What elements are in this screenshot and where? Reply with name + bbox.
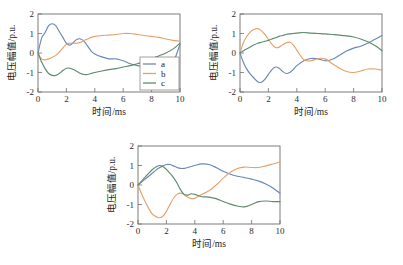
chart-panel-a: 2 1 0 -1 -2 0 2 4 6 8 10 时间/ms 电压幅值/p.u. xyxy=(0,0,200,133)
chart-a-ytick-2: 0 xyxy=(30,48,35,58)
chart-a-xticks: 0 2 4 6 8 10 xyxy=(36,88,185,104)
chart-b-ytick-2: 0 xyxy=(232,48,237,58)
chart-c-ytick-3: -1 xyxy=(127,200,135,210)
chart-c-yticks: 2 1 0 -1 -2 xyxy=(127,141,143,229)
chart-a-xtick-0: 0 xyxy=(36,94,41,104)
chart-a-xtick-5: 10 xyxy=(176,94,186,104)
series-line-a xyxy=(138,164,280,193)
chart-b-ytick-4: -2 xyxy=(229,87,237,97)
chart-b-xtick-2: 4 xyxy=(295,94,300,104)
legend-label-b: b xyxy=(161,69,166,79)
chart-a-xtick-1: 2 xyxy=(64,94,69,104)
chart-panel-b: 2 1 0 -1 -2 0 2 4 6 8 10 时间/ms 电压幅值/p.u. xyxy=(202,0,402,133)
chart-a-svg: 2 1 0 -1 -2 0 2 4 6 8 10 时间/ms 电压幅值/p.u. xyxy=(0,0,200,133)
chart-b-yticks: 2 1 0 -1 -2 xyxy=(229,9,245,97)
chart-c-ytick-0: 2 xyxy=(130,141,135,151)
chart-panel-c: 2 1 0 -1 -2 0 2 4 6 8 10 时间/ms 电压幅值/p.u. xyxy=(100,134,300,264)
chart-c-xtick-4: 8 xyxy=(249,226,254,236)
chart-c-curves xyxy=(138,162,280,218)
chart-b-yaxis-title: 电压幅值/p.u. xyxy=(208,25,219,82)
chart-b-xticks: 0 2 4 6 8 10 xyxy=(238,88,387,104)
chart-b-ytick-0: 2 xyxy=(232,9,237,19)
chart-b-ytick-1: 1 xyxy=(232,29,237,39)
chart-a-legend: a b c xyxy=(140,57,179,90)
chart-c-frame xyxy=(138,146,280,224)
chart-c-xtick-3: 6 xyxy=(221,226,226,236)
chart-c-xtick-5: 10 xyxy=(276,226,286,236)
chart-b-frame xyxy=(240,14,382,92)
chart-a-xtick-4: 8 xyxy=(149,94,154,104)
chart-b-xtick-0: 0 xyxy=(238,94,243,104)
chart-a-ytick-1: 1 xyxy=(30,29,35,39)
chart-b-xaxis-title: 时间/ms xyxy=(294,106,328,117)
legend-label-c: c xyxy=(161,78,165,88)
series-line-b xyxy=(138,162,280,218)
chart-a-ytick-3: -1 xyxy=(27,68,35,78)
chart-c-ytick-4: -2 xyxy=(127,219,135,229)
chart-b-curves xyxy=(240,29,382,83)
chart-b-svg: 2 1 0 -1 -2 0 2 4 6 8 10 时间/ms 电压幅值/p.u. xyxy=(202,0,402,133)
chart-a-xaxis-title: 时间/ms xyxy=(92,106,126,117)
chart-c-ytick-1: 1 xyxy=(130,161,135,171)
chart-c-xtick-0: 0 xyxy=(136,226,141,236)
chart-b-xtick-1: 2 xyxy=(266,94,271,104)
chart-a-ytick-4: -2 xyxy=(27,87,35,97)
chart-b-xtick-4: 8 xyxy=(351,94,356,104)
series-line-c xyxy=(138,165,280,206)
chart-c-xticks: 0 2 4 6 8 10 xyxy=(136,220,285,236)
chart-b-xtick-5: 10 xyxy=(378,94,388,104)
chart-c-xtick-1: 2 xyxy=(164,226,169,236)
series-line-c xyxy=(240,33,382,53)
chart-a-ytick-0: 2 xyxy=(30,9,35,19)
chart-c-xtick-2: 4 xyxy=(193,226,198,236)
chart-c-svg: 2 1 0 -1 -2 0 2 4 6 8 10 时间/ms 电压幅值/p.u. xyxy=(100,134,300,264)
chart-a-yaxis-title: 电压幅值/p.u. xyxy=(6,25,17,82)
chart-c-ytick-2: 0 xyxy=(130,180,135,190)
chart-a-xtick-2: 4 xyxy=(93,94,98,104)
chart-a-xtick-3: 6 xyxy=(121,94,126,104)
chart-c-xaxis-title: 时间/ms xyxy=(192,238,226,249)
chart-b-ytick-3: -1 xyxy=(229,68,237,78)
chart-a-yticks: 2 1 0 -1 -2 xyxy=(27,9,43,97)
chart-c-yaxis-title: 电压幅值/p.u. xyxy=(106,157,117,214)
series-line-b xyxy=(240,29,382,73)
chart-b-xtick-3: 6 xyxy=(323,94,328,104)
legend-label-a: a xyxy=(161,59,165,69)
